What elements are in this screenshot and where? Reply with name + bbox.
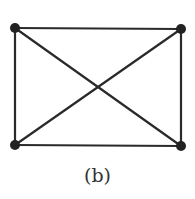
vertex-bottom-left (10, 140, 20, 150)
edge-bottom (15, 145, 181, 146)
vertex-bottom-right (176, 141, 186, 151)
edges (15, 28, 181, 146)
vertex-top-left (10, 23, 20, 33)
vertex-top-right (176, 24, 186, 34)
figure-caption: (b) (0, 164, 195, 186)
edge-top (15, 28, 181, 29)
